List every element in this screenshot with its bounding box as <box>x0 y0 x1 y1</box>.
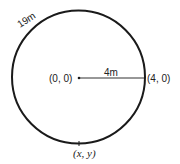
center-label: (0, 0) <box>49 73 72 84</box>
edge-point-label: (4, 0) <box>147 73 170 84</box>
radius-label: 4m <box>104 67 118 78</box>
moving-point-label: (x, y) <box>73 147 96 160</box>
circle-diagram: 19m (0, 0) 4m (4, 0) (x, y) <box>0 0 180 164</box>
center-point <box>78 77 81 80</box>
